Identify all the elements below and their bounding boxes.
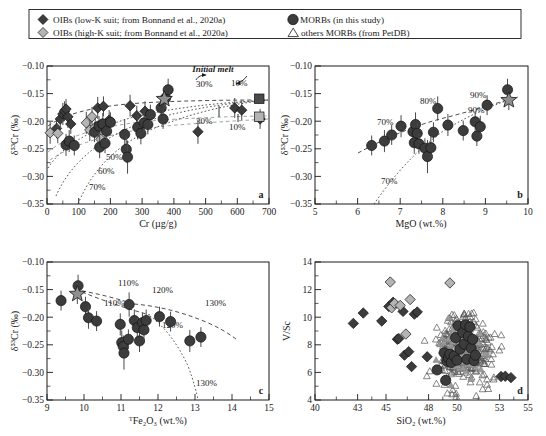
data-point-circle-dark (482, 100, 492, 110)
data-point-circle-dark (387, 130, 397, 140)
panel-a-xlabel: Cr (µg/g) (139, 218, 177, 230)
panel-a-ytick-3: −0.25 (22, 144, 44, 154)
panel-d-letter: d (517, 385, 523, 396)
data-point-circle-dark (410, 119, 420, 129)
legend: OIBs (low-K suit; from Bonnand et al., 2… (29, 10, 521, 39)
data-point-circle-dark (124, 299, 134, 309)
data-point-circle-dark (433, 103, 443, 113)
panel-a-letter: a (259, 189, 264, 200)
panel-a-xtick-0: 0 (45, 207, 50, 217)
annot-a-50pct: 50% (106, 152, 123, 162)
data-point-circle-dark (120, 129, 130, 139)
data-point-circle-dark (367, 140, 377, 150)
panel-c-ytick-5: −0.35 (22, 395, 44, 405)
panel-b-ytick-3: −0.25 (290, 144, 312, 154)
square-light-marker (255, 112, 265, 122)
data-point-circle-dark (115, 319, 125, 329)
data-point-circle-dark (441, 375, 451, 385)
panel-d-xtick-5: 53 (495, 403, 505, 413)
panel-c-letter: c (259, 385, 264, 396)
panel-a-xtick-2: 200 (103, 207, 118, 217)
panel-b-ytick-5: −0.35 (290, 199, 312, 209)
data-point-circle-dark (432, 365, 442, 375)
panel-a-xtick-6: 600 (230, 207, 245, 217)
panel-c-ytick-2: −0.20 (22, 313, 44, 323)
panel-b-xtick-3: 8 (440, 207, 445, 217)
data-point-circle-dark (154, 312, 164, 322)
panel-b-xtick-5: 10 (523, 207, 533, 217)
legend-label-petdb: others MORBs (from PetDB) (301, 28, 409, 38)
data-point-circle-dark (100, 138, 110, 148)
annot-c-110-a: 110% (118, 278, 139, 288)
data-point-circle-dark (428, 127, 438, 137)
panel-d-xlabel: SiO₂ (wt.%) (396, 415, 445, 427)
panel-b-letter: b (517, 189, 523, 200)
panel-a-ytick-5: −0.35 (22, 199, 44, 209)
panel-d-ytick-2: 8 (307, 340, 312, 350)
panel-c-ytick-4: −0.30 (22, 368, 44, 378)
data-point-circle-dark (412, 128, 422, 138)
panel-d-xtick-4: 50 (452, 403, 462, 413)
panel-d-frame (315, 262, 528, 400)
annot-a-10pct-top: 10% (231, 78, 248, 88)
panel-d-ytick-4: 12 (303, 285, 313, 295)
panel-d-xtick-6: 55 (523, 403, 533, 413)
panel-c-xtick-6: 15 (264, 403, 274, 413)
data-point-circle-dark (502, 85, 512, 95)
data-point-circle-dark (458, 125, 468, 135)
panel-c-xtick-4: 13 (190, 403, 200, 413)
annot-a-70pct: 70% (89, 182, 106, 192)
data-point-circle-dark (105, 117, 115, 127)
annot-initial-melt: Initial melt (191, 64, 234, 74)
panel-b-ytick-2: −0.20 (290, 117, 312, 127)
panel-c-xtick-5: 14 (227, 403, 237, 413)
panel-c-ytick-0: −0.10 (22, 257, 44, 267)
circle-dark-icon (288, 14, 298, 24)
square-dark-marker (255, 94, 265, 104)
data-point-circle-dark (134, 336, 144, 346)
panel-b-ytick-4: −0.30 (290, 172, 312, 182)
legend-label-oib-low-k: OIBs (low-K suit; from Bonnand et al., 2… (53, 15, 225, 25)
panel-a-xtick-7: 700 (262, 207, 277, 217)
panel-c-xtick-0: 9 (45, 403, 50, 413)
panel-c-ytick-1: −0.15 (22, 285, 44, 295)
data-point-circle-dark (465, 322, 475, 332)
data-point-circle-dark (123, 334, 133, 344)
panel-a-ytick-1: −0.15 (22, 89, 44, 99)
data-point-circle-dark (119, 348, 129, 358)
panel-b-ytick-1: −0.15 (290, 89, 312, 99)
panel-a-ylabel: δ⁵³Cr (‰) (9, 115, 21, 155)
data-point-circle-dark (122, 152, 132, 162)
panel-a-ytick-2: −0.20 (22, 117, 44, 127)
panel-c-ytick-3: −0.25 (22, 340, 44, 350)
annot-b-90pct-a: 90% (470, 90, 487, 100)
panel-b-xtick-0: 5 (313, 207, 318, 217)
legend-entry-petdb: others MORBs (from PetDB) (288, 28, 409, 38)
annot-c-120-a: 120% (152, 285, 174, 295)
panel-a-ytick-0: −0.10 (22, 61, 44, 71)
panel-d-ytick-3: 10 (303, 313, 313, 323)
panel-d-xtick-2: 45 (381, 403, 391, 413)
panel-c-ylabel: δ⁵³Cr (‰) (9, 311, 21, 351)
annot-b-70pct-bot: 70% (381, 176, 398, 186)
annot-a-60pct: 60% (98, 166, 115, 176)
figure-root: OIBs (low-K suit; from Bonnand et al., 2… (0, 0, 546, 436)
panel-b-xtick-1: 6 (355, 207, 360, 217)
data-point-circle-dark (145, 109, 155, 119)
annot-c-130-b: 130% (196, 378, 218, 388)
data-point-circle-dark (426, 143, 436, 153)
panel-d-ytick-1: 6 (307, 368, 312, 378)
data-point-circle-dark (196, 332, 206, 342)
data-point-circle-dark (91, 316, 101, 326)
panel-c-xlabel: ᵀFe₂O₃ (wt.%) (129, 415, 187, 427)
data-point-circle-dark (468, 334, 478, 344)
data-point-circle-dark (475, 122, 485, 132)
annot-a-30pct-bot: 30% (196, 116, 213, 126)
panel-b-xtick-2: 7 (398, 207, 403, 217)
annot-c-130-a: 130% (205, 298, 227, 308)
panel-d-ylabel: V/Sc (281, 320, 292, 341)
legend-label-oib-high-k: OIBs (high-K suit; from Bonnand et al., … (53, 28, 228, 38)
data-point-circle-dark (185, 336, 195, 346)
four-panel-figure: OIBs (low-K suit; from Bonnand et al., 2… (0, 0, 546, 436)
panel-a-ytick-4: −0.30 (22, 172, 44, 182)
